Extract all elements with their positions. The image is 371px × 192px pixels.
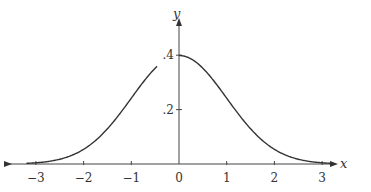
density-curve-right bbox=[179, 55, 332, 163]
x-axis-label: x bbox=[340, 156, 348, 171]
x-tick-label: −2 bbox=[75, 171, 93, 185]
y-tick-label: .4 bbox=[163, 48, 175, 62]
x-tick-label: 3 bbox=[318, 171, 326, 185]
x-tick-label: 2 bbox=[271, 171, 279, 185]
y-axis-label: y bbox=[172, 6, 181, 21]
x-tick-label: 0 bbox=[175, 171, 183, 185]
x-tick-label: 1 bbox=[223, 171, 231, 185]
density-curve-left bbox=[26, 66, 157, 163]
y-tick-label: .2 bbox=[163, 103, 174, 117]
x-tick-label: −3 bbox=[27, 171, 45, 185]
x-ticks: −3−2−10123 bbox=[27, 161, 326, 185]
normal-curve-chart: x y −3−2−10123 .2.4 bbox=[0, 0, 371, 192]
x-tick-label: −1 bbox=[122, 171, 140, 185]
